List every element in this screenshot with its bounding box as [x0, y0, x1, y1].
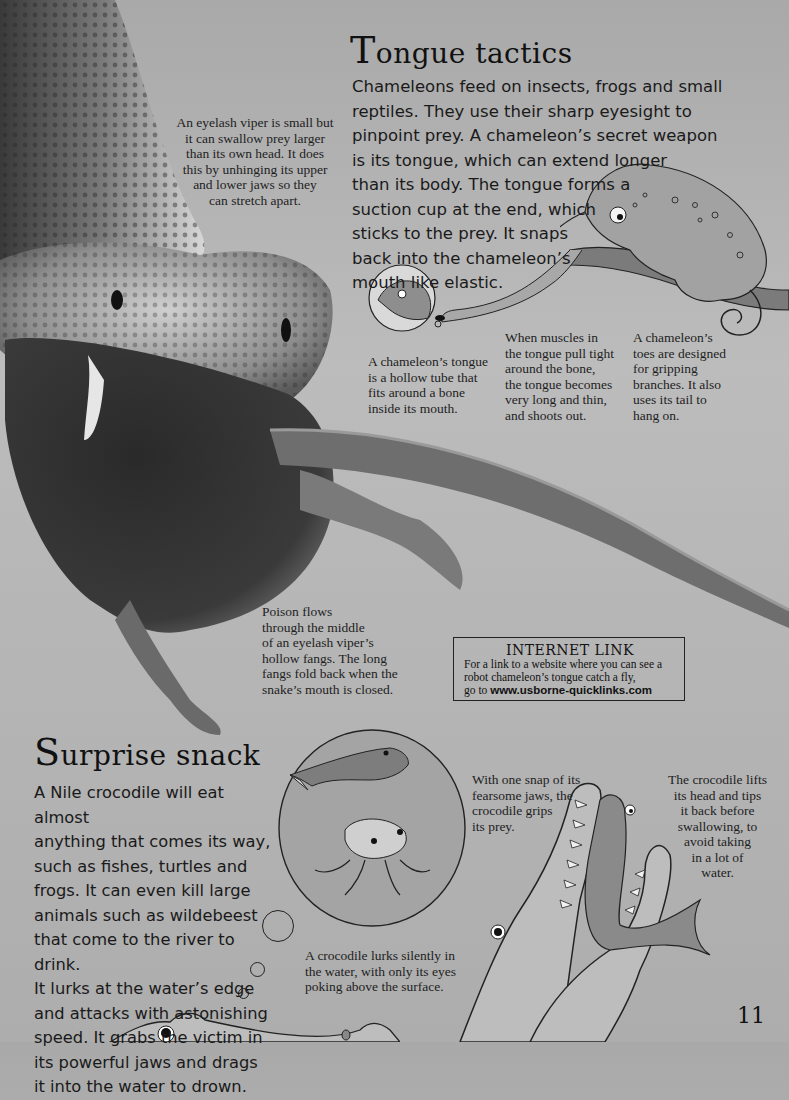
chameleon-toes-caption: A chameleon’s toes are designed for grip… — [633, 330, 783, 423]
tongue-tube-caption: A chameleon’s tongue is a hollow tube th… — [368, 354, 508, 416]
quicklinks-url[interactable]: www.usborne-quicklinks.com — [490, 684, 652, 696]
surprise-snack-body: A Nile crocodile will eat almost anythin… — [34, 781, 274, 1100]
crocodile-snap-caption: With one snap of its fearsome jaws, the … — [472, 772, 602, 834]
tongue-tactics-heading: Tongue tactics — [350, 28, 573, 72]
crocodile-lurks-caption: A crocodile lurks silently in the water,… — [305, 948, 485, 995]
tongue-muscles-caption: When muscles in the tongue pull tight ar… — [505, 330, 635, 423]
internet-link-title: INTERNET LINK — [464, 642, 676, 658]
internet-link-body: For a link to a website where you can se… — [464, 658, 676, 697]
page-number: 11 — [737, 1003, 765, 1028]
crocodile-lifts-caption: The crocodile lifts its head and tips it… — [650, 772, 785, 881]
viper-swallow-caption: An eyelash viper is small but it can swa… — [175, 115, 335, 208]
tongue-tactics-body: Chameleons feed on insects, frogs and sm… — [352, 75, 772, 296]
internet-link-box: INTERNET LINK For a link to a website wh… — [453, 637, 685, 701]
viper-poison-caption: Poison flows through the middle of an ey… — [262, 604, 432, 697]
surprise-snack-heading: Surprise snack — [34, 730, 260, 774]
